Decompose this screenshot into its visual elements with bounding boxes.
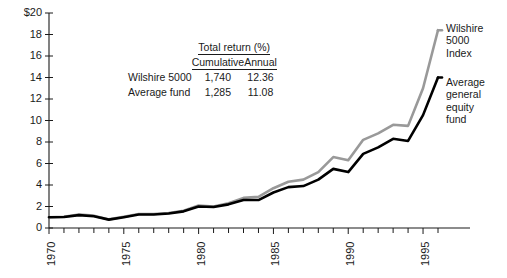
chart-page: 024681012141618$20 197019751980198519901… — [0, 0, 507, 278]
x-axis-tick-label: 1990 — [344, 242, 356, 266]
table-header-cumulative: Cumulative — [192, 55, 245, 70]
table-cell-row-label: Wilshire 5000 — [128, 70, 192, 85]
table-header-annual: Annual — [244, 55, 277, 70]
y-axis-tick-label: 6 — [0, 157, 42, 169]
y-axis-tick-label: 10 — [0, 114, 42, 126]
table-cell-row-label: Average fund — [128, 85, 192, 100]
table-title-cell: Total return (%) — [192, 40, 277, 55]
table-cell-annual: 12.36 — [244, 70, 277, 85]
table-cell-cumulative: 1,285 — [192, 85, 245, 100]
table-title-text: Total return (%) — [198, 41, 270, 55]
series-label-wilshire-5000: Wilshire 5000 Index — [446, 22, 483, 59]
table-title-row: Total return (%) — [128, 40, 277, 55]
y-axis-tick-label: 14 — [0, 71, 42, 83]
table-title-spacer — [128, 40, 192, 55]
table-cell-cumulative: 1,740 — [192, 70, 245, 85]
table-cell-annual: 11.08 — [244, 85, 277, 100]
x-axis-tick-label: 1985 — [269, 242, 281, 266]
y-axis-tick-label: 0 — [0, 221, 42, 233]
x-axis-tick-label: 1995 — [419, 242, 431, 266]
table-row: Wilshire 50001,74012.36 — [128, 70, 277, 85]
x-axis-tick-label: 1980 — [195, 242, 207, 266]
y-axis-tick-label: 18 — [0, 28, 42, 40]
y-axis-tick-label: $20 — [0, 6, 42, 18]
table-header-spacer — [128, 55, 192, 70]
table-row: Average fund1,28511.08 — [128, 85, 277, 100]
y-axis-tick-label: 16 — [0, 49, 42, 61]
total-return-table: Total return (%) Cumulative Annual Wilsh… — [128, 40, 277, 101]
table-header-row: Cumulative Annual — [128, 55, 277, 70]
table-header-annual-text: Annual — [244, 56, 277, 70]
x-axis-tick-label: 1975 — [120, 242, 132, 266]
series-label-average-general-equity-fund: Average general equity fund — [446, 76, 485, 126]
y-axis-tick-label: 12 — [0, 92, 42, 104]
total-return-table-body: Wilshire 50001,74012.36Average fund1,285… — [128, 70, 277, 100]
x-axis-tick-label: 1970 — [45, 242, 57, 266]
y-axis-tick-label: 2 — [0, 200, 42, 212]
table-header-cumulative-text: Cumulative — [192, 56, 245, 70]
y-axis-tick-label: 8 — [0, 135, 42, 147]
y-axis-tick-label: 4 — [0, 178, 42, 190]
